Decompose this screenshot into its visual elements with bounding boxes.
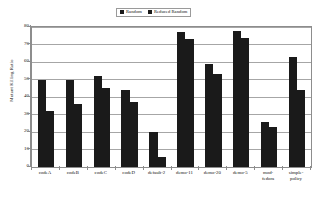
bar [297, 90, 305, 167]
bar [289, 57, 297, 167]
x-tick-label: codeA [31, 170, 59, 176]
legend-swatch-reduced-random [148, 10, 152, 14]
bar [94, 76, 102, 167]
x-tick-label: demo-5 [226, 170, 254, 176]
x-tick-label: demo-11 [171, 170, 199, 176]
bar [66, 80, 74, 168]
x-tick-mark [254, 166, 255, 170]
bar [46, 111, 54, 167]
bars-layer [32, 27, 311, 167]
legend-label-random: Random [126, 10, 142, 15]
x-tick-label: codeC [87, 170, 115, 176]
x-tick-mark [171, 166, 172, 170]
bar [213, 74, 221, 167]
legend-label-reduced-random: Reduced Random [154, 10, 188, 15]
bar [205, 64, 213, 167]
bar [121, 90, 129, 167]
bar [130, 102, 138, 167]
x-tick-mark [59, 166, 60, 170]
x-tick-label: mod- fedora [254, 170, 282, 181]
x-tick-label: codeD [115, 170, 143, 176]
x-tick-mark [226, 166, 227, 170]
x-tick-mark [198, 166, 199, 170]
x-tick-mark [282, 166, 283, 170]
bar [149, 132, 157, 167]
x-tick-mark [143, 166, 144, 170]
y-axis-ticks: 01020304050607080 [0, 0, 29, 200]
legend-entry-reduced-random: Reduced Random [148, 10, 188, 15]
x-tick-label: codeB [59, 170, 87, 176]
x-axis-labels: codeAcodeBcodeCcodeDdefault-2demo-11demo… [31, 170, 310, 196]
x-tick-label: simple- policy [282, 170, 310, 181]
legend-swatch-random [120, 10, 124, 14]
bar [38, 80, 46, 168]
chart-legend: Random Reduced Random [116, 8, 191, 17]
bar [241, 38, 249, 168]
legend-entry-random: Random [120, 10, 142, 15]
x-tick-mark [31, 166, 32, 170]
bar [177, 32, 185, 167]
x-tick-label: demo-20 [198, 170, 226, 176]
bar [74, 104, 82, 167]
bar [233, 31, 241, 168]
chart-figure: Random Reduced Random Mutant Killing Rat… [0, 0, 318, 200]
bar [102, 88, 110, 167]
bar [269, 127, 277, 167]
x-tick-mark [87, 166, 88, 170]
x-tick-label: default-2 [143, 170, 171, 176]
bar [185, 39, 193, 167]
x-tick-mark [310, 166, 311, 170]
bar [261, 122, 269, 168]
x-tick-mark [115, 166, 116, 170]
bar [158, 157, 166, 168]
plot-area [31, 26, 312, 168]
